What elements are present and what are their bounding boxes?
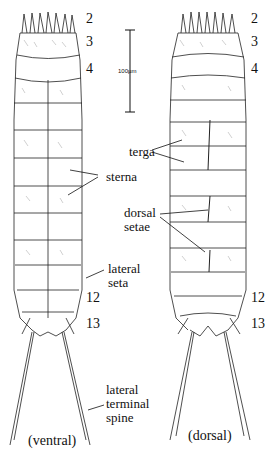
label-lateral-terminal-spine-2: terminal [106,397,149,410]
dorsal-view-drawing [170,12,250,440]
label-sterna: sterna [106,170,137,183]
label-lateral-seta-2: seta [108,276,128,289]
caption-ventral: (ventral) [28,434,76,447]
dorsal-segment-3: 3 [251,35,258,49]
scale-bar-label: 100µm [118,68,136,74]
label-lateral-terminal-spine-1: lateral [106,383,138,396]
ventral-segment-3: 3 [86,35,93,49]
caption-dorsal: (dorsal) [188,429,232,442]
ventral-segment-4: 4 [86,62,93,76]
dorsal-segment-4: 4 [251,62,258,76]
label-terga: terga [129,145,155,158]
label-lateral-seta-1: lateral [108,262,140,275]
label-setae: setae [124,220,150,233]
ventral-segment-13: 13 [86,317,100,331]
dorsal-segment-12: 12 [251,291,265,305]
dorsal-segment-2: 2 [251,12,258,26]
label-dorsal: dorsal [124,206,156,219]
label-lateral-terminal-spine-3: spine [106,411,133,424]
dorsal-segment-13: 13 [251,317,265,331]
ventral-view-drawing [10,12,90,445]
ventral-segment-12: 12 [86,291,100,305]
ventral-segment-2: 2 [86,12,93,26]
